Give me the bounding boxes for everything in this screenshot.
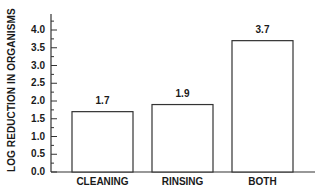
bar-chart: LOG REDUCTION IN ORGANISMS 0.00.51.01.52… — [0, 0, 320, 193]
y-tick-label: 0.0 — [21, 166, 45, 177]
category-label: BOTH — [223, 176, 303, 187]
y-tick-label: 0.5 — [21, 148, 45, 159]
bar-rinsing — [152, 105, 213, 172]
bar-cleaning — [72, 112, 133, 172]
value-label: 1.7 — [73, 95, 133, 106]
y-tick-label: 3.0 — [21, 60, 45, 71]
bar-both — [232, 41, 293, 172]
y-tick-label: 1.0 — [21, 131, 45, 142]
y-tick-label: 3.5 — [21, 42, 45, 53]
category-label: CLEANING — [63, 176, 143, 187]
value-label: 1.9 — [153, 88, 213, 99]
value-label: 3.7 — [233, 24, 293, 35]
y-tick-label: 2.5 — [21, 77, 45, 88]
y-tick-label: 4.0 — [21, 24, 45, 35]
y-tick-label: 1.5 — [21, 113, 45, 124]
y-axis-label: LOG REDUCTION IN ORGANISMS — [6, 8, 17, 172]
y-tick-label: 2.0 — [21, 95, 45, 106]
category-label: RINSING — [143, 176, 223, 187]
